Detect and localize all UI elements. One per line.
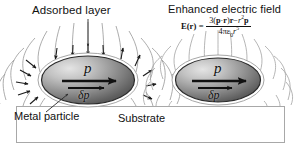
equation-denominator: 4πε0r5 bbox=[219, 27, 239, 36]
equation-lhs: E(r) bbox=[181, 22, 196, 31]
equation-equals: = bbox=[199, 22, 204, 31]
substrate-label: Substrate bbox=[118, 112, 165, 124]
metal-particle-label: Metal particle bbox=[14, 110, 79, 122]
equation-paren-close: ) bbox=[193, 21, 196, 31]
equation-p2: p bbox=[244, 16, 249, 25]
equation-fraction: 3(p·r)r−r2p 4πε0r5 bbox=[206, 17, 251, 36]
diagram-canvas bbox=[0, 0, 296, 151]
figure-root: Adsorbed layer Enhanced electric field M… bbox=[0, 0, 296, 151]
right-dipole-label: p bbox=[214, 60, 222, 77]
enhanced-electric-field-label: Enhanced electric field bbox=[168, 3, 281, 15]
adsorbed-layer-label: Adsorbed layer bbox=[32, 4, 111, 16]
right-delta-dipole-label: δp bbox=[208, 88, 220, 103]
equation-numerator: 3(p·r)r−r2p bbox=[206, 17, 251, 27]
left-delta-dipole-label: δp bbox=[78, 88, 90, 103]
equation-r-denominator-exponent: 5 bbox=[236, 25, 239, 31]
dipole-field-equation: E(r) = 3(p·r)r−r2p 4πε0r5 bbox=[181, 17, 251, 36]
left-dipole-label: p bbox=[84, 60, 92, 77]
